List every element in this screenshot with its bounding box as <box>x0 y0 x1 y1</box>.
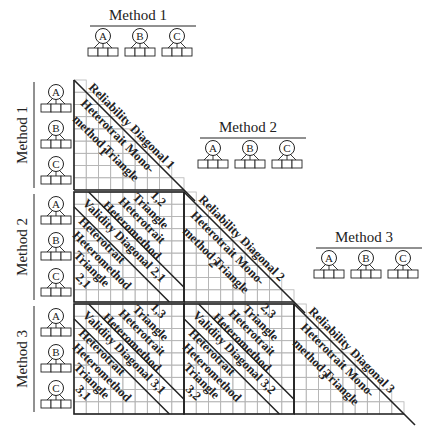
trait-icon-c: C <box>41 157 71 185</box>
svg-text:B: B <box>52 346 59 358</box>
svg-text:C: C <box>52 158 59 170</box>
method-header-label: Method 3 <box>335 229 393 245</box>
method-side-label: Method 3 <box>14 330 30 388</box>
svg-text:B: B <box>52 234 59 246</box>
trait-icon-c: C <box>162 29 192 57</box>
trait-icon-a: A <box>88 29 118 57</box>
trait-icon-b: B <box>235 141 265 169</box>
svg-text:A: A <box>209 142 217 154</box>
trait-icon-c: C <box>41 269 71 297</box>
trait-icon-b: B <box>351 251 381 279</box>
method-header-label: Method 2 <box>219 119 277 135</box>
svg-text:B: B <box>246 142 253 154</box>
mtmm-diagram: Reliability Diagonal 1Heterotrait Mono-m… <box>0 0 427 438</box>
svg-text:A: A <box>99 30 107 42</box>
trait-icon-a: A <box>41 85 71 113</box>
svg-text:B: B <box>362 252 369 264</box>
svg-text:A: A <box>52 86 60 98</box>
svg-text:B: B <box>136 30 143 42</box>
method-header-label: Method 1 <box>109 7 167 23</box>
trait-icon-b: B <box>41 121 71 149</box>
mtmm-matrix-svg: Reliability Diagonal 1Heterotrait Mono-m… <box>0 0 427 438</box>
trait-icon-c: C <box>41 381 71 409</box>
svg-text:A: A <box>52 198 60 210</box>
trait-icon-b: B <box>41 233 71 261</box>
method-side-label: Method 2 <box>14 218 30 276</box>
trait-icon-b: B <box>125 29 155 57</box>
method-side-label: Method 1 <box>14 106 30 164</box>
svg-text:C: C <box>52 382 59 394</box>
svg-text:C: C <box>283 142 290 154</box>
svg-text:B: B <box>52 122 59 134</box>
svg-text:C: C <box>173 30 180 42</box>
svg-text:C: C <box>399 252 406 264</box>
svg-text:A: A <box>325 252 333 264</box>
trait-icon-c: C <box>272 141 302 169</box>
trait-icon-a: A <box>41 197 71 225</box>
trait-icon-c: C <box>388 251 418 279</box>
trait-icon-b: B <box>41 345 71 373</box>
svg-text:C: C <box>52 270 59 282</box>
trait-icon-a: A <box>41 309 71 337</box>
svg-text:A: A <box>52 310 60 322</box>
trait-icon-a: A <box>314 251 344 279</box>
trait-icon-a: A <box>198 141 228 169</box>
